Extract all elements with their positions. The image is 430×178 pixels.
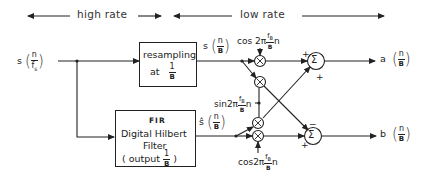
resampling-block: resampling at 1B [139,42,197,87]
cos-top-num-sub: B [269,35,272,41]
resampling-rate: at 1B [150,63,176,81]
sin-mid-suffix: n [246,99,252,109]
sin-mid-num-sub: B [241,98,244,104]
input-signal-name: s [17,55,22,66]
sin-mid-label: sin2πfBBn [214,96,252,113]
summer-top-symbol: Σ [311,55,317,65]
cos-bottom-label: cos2πfBBn [238,154,278,171]
hilbert-output-prefix: ( output [122,153,160,164]
input-signal-label: s (nfs) [17,51,44,72]
cos-bottom-prefix: cos2π [238,157,264,167]
hilbert-output-rate: ( output 1B ) [122,150,177,168]
input-num: n [31,51,38,61]
sin-mid-prefix: sin2π [214,99,238,109]
summer-top-plus-left: + [302,49,310,59]
resampled-signal-label: s (nB) [203,37,230,55]
output-b-label: b (nB) [380,125,411,143]
output-a-label: a (nB) [380,50,411,68]
resampling-at: at [150,66,160,77]
signal-flow-wiring [0,0,430,178]
resampling-num: 1 [169,63,176,73]
hilbert-signal-label: ŝ (nB) [199,113,226,131]
hilbert-output-suffix: ) [173,153,177,164]
hilbert-num: 1 [163,150,170,160]
cos-bottom-num-sub: B [268,156,271,162]
hilbert-signal-name: ŝ [199,116,204,127]
hilbert-den: B [163,160,170,168]
summer-bottom-symbol: Σ [308,130,314,140]
output-b-name: b [380,128,386,139]
output-a-num: n [398,50,405,60]
resampled-num: n [217,37,224,47]
output-a-den: B [398,60,405,68]
cos-bottom-den: B [264,164,272,171]
input-den-sub: s [34,65,37,72]
hilbert-signal-num: n [213,113,220,123]
cos-top-label: cos 2πfBBn [237,33,280,50]
cos-top-suffix: n [274,36,280,46]
summer-top-plus-bottom: + [316,72,324,82]
hilbert-filter-block: FIR Digital Hilbert Filter ( output 1B ) [115,110,196,167]
cos-bottom-suffix: n [272,157,278,167]
cos-top-den: B [266,43,274,50]
sin-mid-den: B [238,106,246,113]
hilbert-fir-label: FIR [149,116,166,125]
hilbert-signal-den: B [213,123,220,131]
resampling-den: B [169,73,176,81]
low-rate-label: low rate [240,9,285,20]
output-b-num: n [398,125,405,135]
high-rate-label: high rate [77,9,127,20]
resampling-label: resampling [143,49,196,60]
hilbert-digital-label: Digital Hilbert [121,128,187,139]
output-a-name: a [380,53,386,64]
cos-top-prefix: cos 2π [237,36,266,46]
resampled-den: B [217,47,224,55]
resampled-signal-name: s [203,40,208,51]
summer-bottom-plus-left: + [301,140,309,150]
output-b-den: B [398,135,405,143]
summer-bottom-minus-top: − [309,119,317,129]
